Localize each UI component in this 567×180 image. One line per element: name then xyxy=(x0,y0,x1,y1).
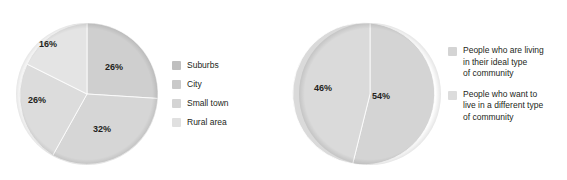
legend-community-type: Suburbs City Small town Rural area xyxy=(172,56,277,132)
legend-label-city: City xyxy=(187,79,202,91)
pie-label-ideal-community-pct: 54% xyxy=(372,92,390,101)
legend-swatch-different-community xyxy=(448,91,457,100)
chart-panel-community-type: 16% 26% 26% 32% Suburbs City Small town … xyxy=(0,0,283,180)
pie-svg-ideal-community xyxy=(299,23,441,165)
legend-item-different-community[interactable]: People who want to live in a different t… xyxy=(448,89,567,124)
chart-panel-ideal-community: 46% 54% People who are living in their i… xyxy=(283,0,567,180)
pie-label-rural-area-pct: 16% xyxy=(39,40,57,49)
legend-label-rural-area: Rural area xyxy=(187,117,227,129)
legend-swatch-city xyxy=(172,80,181,89)
legend-ideal-community: People who are living in their ideal typ… xyxy=(448,45,567,132)
pie-chart-ideal-community xyxy=(299,23,441,165)
legend-label-ideal-community: People who are living in their ideal typ… xyxy=(463,45,544,80)
legend-item-suburbs[interactable]: Suburbs xyxy=(172,56,277,75)
pie-label-different-community-pct: 46% xyxy=(314,84,332,93)
legend-swatch-small-town xyxy=(172,99,181,108)
legend-label-small-town: Small town xyxy=(187,98,229,110)
pie-svg-community-type xyxy=(16,23,158,165)
pie-chart-community-type xyxy=(16,23,158,165)
two-pie-chart-figure: 16% 26% 26% 32% Suburbs City Small town … xyxy=(0,0,567,180)
legend-swatch-rural-area xyxy=(172,118,181,127)
legend-swatch-ideal-community xyxy=(448,47,457,56)
pie-label-city-pct: 32% xyxy=(93,125,111,134)
legend-label-suburbs: Suburbs xyxy=(187,60,219,72)
legend-swatch-suburbs xyxy=(172,61,181,70)
legend-item-rural-area[interactable]: Rural area xyxy=(172,113,277,132)
pie-label-small-town-pct: 26% xyxy=(28,96,46,105)
legend-item-city[interactable]: City xyxy=(172,75,277,94)
legend-item-ideal-community[interactable]: People who are living in their ideal typ… xyxy=(448,45,567,80)
legend-item-small-town[interactable]: Small town xyxy=(172,94,277,113)
pie-label-suburbs-pct: 26% xyxy=(105,63,123,72)
legend-label-different-community: People who want to live in a different t… xyxy=(463,89,543,124)
